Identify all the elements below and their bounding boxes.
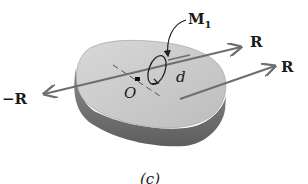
moment-label-subscript: 1 bbox=[205, 19, 212, 30]
point-O-marker bbox=[135, 77, 140, 81]
vector-R-label: R bbox=[250, 35, 262, 50]
vector-neg-R-label: −R bbox=[2, 92, 27, 107]
moment-label-main: M bbox=[188, 10, 205, 28]
vector-R-offset-label: R bbox=[281, 60, 293, 75]
diagram-canvas: M1 R R −R O d (c) bbox=[0, 0, 308, 184]
figure-caption: (c) bbox=[140, 172, 160, 184]
moment-label: M1 bbox=[188, 12, 212, 30]
point-O-label: O bbox=[124, 86, 136, 101]
rigid-body-diagram bbox=[0, 0, 308, 184]
distance-d-label: d bbox=[176, 70, 186, 85]
